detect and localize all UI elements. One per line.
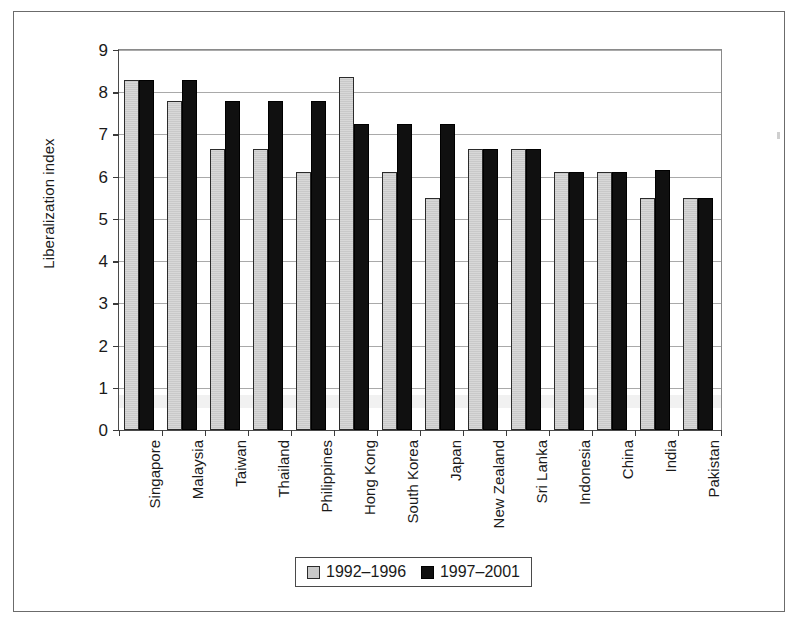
y-axis-tick bbox=[113, 346, 119, 347]
bar bbox=[640, 198, 655, 430]
legend-label-series-1: 1992–1996 bbox=[326, 564, 406, 580]
x-axis-tick bbox=[377, 430, 378, 436]
y-axis-tick-label: 5 bbox=[99, 210, 108, 227]
x-axis-tick bbox=[635, 430, 636, 436]
y-axis-tick-label: 1 bbox=[99, 379, 108, 396]
legend-swatch-icon-series-1 bbox=[307, 566, 320, 579]
legend-entry-series-2: 1997–2001 bbox=[421, 564, 520, 580]
x-axis-category-label: China bbox=[620, 440, 635, 479]
x-axis-category-label: South Korea bbox=[405, 440, 420, 523]
bar bbox=[339, 77, 354, 430]
gridline bbox=[119, 92, 721, 93]
x-axis-tick bbox=[162, 430, 163, 436]
y-axis-tick-label: 2 bbox=[99, 337, 108, 354]
bar bbox=[167, 101, 182, 430]
y-axis-tick-label: 6 bbox=[99, 168, 108, 185]
y-axis-tick bbox=[113, 388, 119, 389]
bar bbox=[210, 149, 225, 430]
bar bbox=[268, 101, 283, 430]
legend-label-series-2: 1997–2001 bbox=[440, 564, 520, 580]
bar bbox=[311, 101, 326, 430]
x-axis-category-label: Singapore bbox=[147, 440, 162, 508]
y-axis-title: Liberalization index bbox=[40, 104, 57, 304]
figure-frame: Liberalization index 0123456789Singapore… bbox=[13, 11, 785, 612]
x-axis-tick bbox=[334, 430, 335, 436]
chart-legend: 1992–1996 1997–2001 bbox=[295, 557, 532, 587]
x-axis-tick bbox=[291, 430, 292, 436]
x-axis-tick bbox=[205, 430, 206, 436]
bar bbox=[569, 172, 584, 430]
y-axis-tick bbox=[113, 134, 119, 135]
x-axis-tick bbox=[678, 430, 679, 436]
x-axis-category-label: Hong Kong bbox=[362, 440, 377, 515]
x-axis-category-label: Taiwan bbox=[233, 440, 248, 487]
x-axis-category-label: Japan bbox=[448, 440, 463, 481]
y-axis-tick-label: 0 bbox=[99, 422, 108, 439]
x-axis-tick bbox=[463, 430, 464, 436]
bar bbox=[253, 149, 268, 430]
y-axis-tick-label: 3 bbox=[99, 295, 108, 312]
x-axis-category-label: Indonesia bbox=[577, 440, 592, 505]
bar bbox=[683, 198, 698, 430]
bar bbox=[468, 149, 483, 430]
bar bbox=[354, 124, 369, 430]
y-axis-tick-label: 4 bbox=[99, 253, 108, 270]
y-axis-tick bbox=[113, 219, 119, 220]
x-axis-category-label: Sri Lanka bbox=[534, 440, 549, 503]
x-axis-tick bbox=[119, 430, 120, 436]
bar bbox=[483, 149, 498, 430]
y-axis-tick bbox=[113, 50, 119, 51]
bar bbox=[655, 170, 670, 430]
x-axis-tick bbox=[420, 430, 421, 436]
plot-area: 0123456789SingaporeMalaysiaTaiwanThailan… bbox=[118, 49, 722, 431]
gridline bbox=[119, 50, 721, 51]
x-axis-category-label: New Zealand bbox=[491, 440, 506, 528]
bar bbox=[698, 198, 713, 430]
y-axis-tick bbox=[113, 92, 119, 93]
x-axis-category-label: India bbox=[663, 440, 678, 473]
bar bbox=[139, 80, 154, 430]
x-axis-category-label: Thailand bbox=[276, 440, 291, 498]
x-axis-category-label: Pakistan bbox=[706, 440, 721, 498]
y-axis-tick bbox=[113, 261, 119, 262]
y-axis-tick bbox=[113, 303, 119, 304]
x-axis-tick bbox=[549, 430, 550, 436]
x-axis-category-label: Malaysia bbox=[190, 440, 205, 499]
legend-swatch-icon-series-2 bbox=[421, 566, 434, 579]
bar-chart: Liberalization index 0123456789Singapore… bbox=[14, 12, 786, 613]
gridline bbox=[119, 134, 721, 135]
x-axis-category-label: Philippines bbox=[319, 440, 334, 513]
legend-entry-series-1: 1992–1996 bbox=[307, 564, 406, 580]
y-axis-tick-label: 7 bbox=[99, 126, 108, 143]
y-axis-tick bbox=[113, 177, 119, 178]
x-axis-tick bbox=[248, 430, 249, 436]
bar bbox=[296, 172, 311, 430]
bar bbox=[526, 149, 541, 430]
x-axis-tick bbox=[721, 430, 722, 436]
bar bbox=[440, 124, 455, 430]
bar bbox=[182, 80, 197, 430]
bar bbox=[425, 198, 440, 430]
bar bbox=[124, 80, 139, 430]
bar bbox=[225, 101, 240, 430]
bar bbox=[382, 172, 397, 430]
x-axis-tick bbox=[592, 430, 593, 436]
bar bbox=[511, 149, 526, 430]
bar bbox=[612, 172, 627, 430]
bar bbox=[597, 172, 612, 430]
x-axis-tick bbox=[506, 430, 507, 436]
bar bbox=[554, 172, 569, 430]
scan-speck bbox=[777, 132, 780, 139]
y-axis-tick-label: 8 bbox=[99, 84, 108, 101]
y-axis-tick-label: 9 bbox=[99, 42, 108, 59]
bar bbox=[397, 124, 412, 430]
